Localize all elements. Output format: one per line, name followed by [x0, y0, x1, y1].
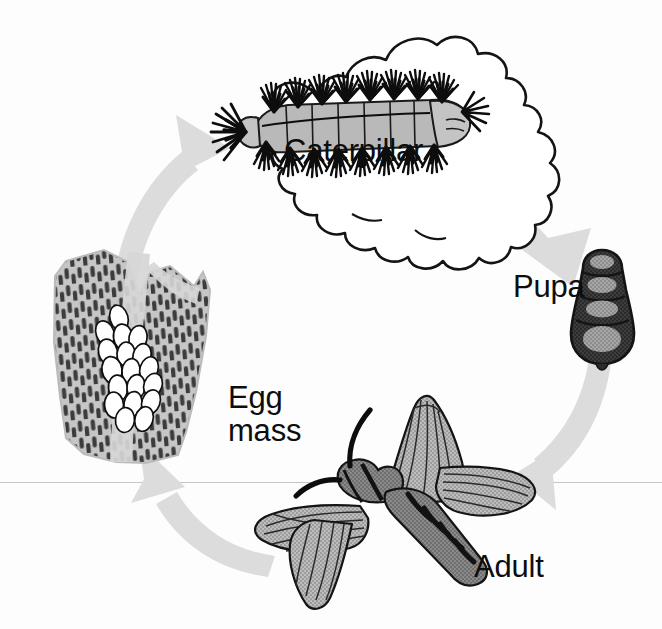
egg-mass-label-line1: Egg: [228, 380, 283, 415]
life-cycle-figure: Caterpillar Pupa Eggmass Adult: [0, 0, 662, 629]
figure-artwork: [0, 0, 662, 629]
stage-label-caterpillar: Caterpillar: [284, 134, 423, 167]
egg-mass-label-line2: mass: [228, 413, 301, 448]
stage-label-pupa: Pupa: [513, 270, 585, 303]
stage-label-adult: Adult: [474, 550, 544, 583]
pupa-illustration: [571, 250, 634, 370]
egg-mass-illustration: [54, 250, 210, 463]
arrow-adult-to-egg: [131, 443, 275, 577]
stage-label-egg-mass: Eggmass: [228, 382, 301, 448]
